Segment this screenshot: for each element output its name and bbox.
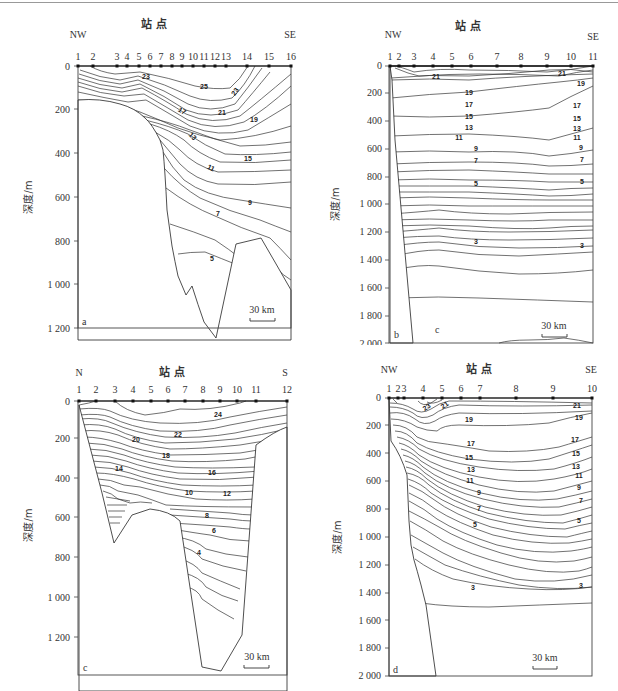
- panel-b-scale-bar: [542, 334, 567, 337]
- svg-text:13: 13: [221, 51, 231, 62]
- svg-text:7: 7: [477, 505, 481, 512]
- svg-text:3: 3: [471, 584, 475, 591]
- svg-text:4: 4: [197, 549, 201, 556]
- panel-a-left-direction: NW: [70, 29, 87, 40]
- svg-text:5: 5: [580, 178, 584, 185]
- svg-text:1 200: 1 200: [359, 559, 382, 570]
- svg-text:7: 7: [478, 383, 483, 394]
- svg-text:10: 10: [188, 51, 198, 62]
- svg-text:15: 15: [572, 450, 580, 457]
- svg-text:3: 3: [113, 384, 118, 395]
- svg-text:6: 6: [469, 51, 474, 62]
- svg-text:15: 15: [244, 155, 252, 162]
- svg-text:15: 15: [264, 51, 274, 62]
- svg-text:2 000: 2 000: [360, 338, 383, 345]
- panel-c-y-label: 深度/m: [22, 508, 34, 541]
- svg-text:200: 200: [367, 87, 382, 98]
- svg-text:11: 11: [573, 134, 581, 141]
- svg-text:1: 1: [77, 384, 82, 395]
- panel-b-frame: [389, 66, 593, 343]
- svg-text:0: 0: [377, 60, 382, 71]
- svg-text:4: 4: [421, 383, 426, 394]
- panel-d-station-labels: 1 2 3 4 5 6 7 8 9 10: [387, 383, 598, 394]
- svg-text:9: 9: [218, 384, 223, 395]
- panel-b-right-direction: SE: [587, 31, 599, 42]
- svg-text:21: 21: [558, 70, 566, 77]
- svg-text:1: 1: [387, 383, 392, 394]
- svg-text:14: 14: [242, 51, 252, 62]
- svg-text:400: 400: [366, 448, 381, 459]
- panel-c-scale-bar-label: 30 km: [244, 651, 270, 662]
- svg-text:10: 10: [587, 383, 597, 394]
- svg-text:9: 9: [551, 383, 556, 394]
- svg-text:1 600: 1 600: [360, 282, 383, 293]
- svg-text:8: 8: [514, 383, 519, 394]
- panel-b-extra-label: c: [435, 324, 440, 335]
- panel-b-station-labels: 1 2 3 4 5 6 7 8 9 10 11: [388, 51, 598, 62]
- svg-text:11: 11: [251, 384, 261, 395]
- svg-text:7: 7: [495, 51, 500, 62]
- panel-b-scale-bar-label: 30 km: [541, 320, 567, 331]
- svg-text:1 800: 1 800: [360, 310, 383, 321]
- svg-text:9: 9: [474, 145, 478, 152]
- panel-a-y-label: 深度/m: [22, 180, 34, 213]
- svg-text:9: 9: [579, 144, 583, 151]
- svg-text:2 000: 2 000: [359, 670, 382, 681]
- svg-text:1 200: 1 200: [360, 226, 383, 237]
- svg-text:16: 16: [286, 51, 296, 62]
- panel-d-scale-bar-label: 30 km: [532, 652, 558, 663]
- panel-a-label: a: [82, 316, 87, 327]
- svg-text:18: 18: [162, 452, 170, 459]
- panel-a: 站 点 NW SE 1 2 3 4 5 6 7 8 9 10 11 12 13 …: [0, 0, 309, 345]
- panel-b-contour-labels: 21 21 19 19 17 17 15 15 13 13 11 11 9 9 …: [432, 70, 585, 249]
- svg-text:24: 24: [214, 411, 222, 418]
- panel-c-left-direction: N: [75, 367, 82, 378]
- panel-b-y-label: 深度/m: [329, 187, 341, 220]
- svg-text:6: 6: [459, 383, 464, 394]
- svg-text:4: 4: [431, 51, 436, 62]
- panel-a-scale-bar-label: 30 km: [249, 304, 275, 315]
- panel-b-y-axis: 0 200 400 600 800 1 000 1 200 1 400 1 60…: [360, 60, 390, 345]
- svg-text:1: 1: [388, 51, 393, 62]
- panel-c-label: c: [83, 662, 88, 673]
- svg-text:4: 4: [125, 51, 130, 62]
- panel-b-isotherms: [391, 66, 593, 343]
- svg-text:7: 7: [183, 384, 188, 395]
- svg-text:0: 0: [376, 392, 381, 403]
- svg-text:9: 9: [180, 51, 185, 62]
- svg-text:200: 200: [55, 104, 70, 115]
- svg-text:19: 19: [577, 80, 585, 87]
- svg-text:3: 3: [579, 582, 583, 589]
- svg-text:1 000: 1 000: [360, 198, 383, 209]
- panel-d-scale-bar: [533, 666, 557, 669]
- panel-d-right-direction: SE: [585, 364, 597, 375]
- svg-text:600: 600: [366, 475, 381, 486]
- svg-text:600: 600: [55, 192, 70, 203]
- panel-d: 站 点 NW SE 1 2 3 4 5 6 7 8 9 10 0 200 400…: [309, 345, 618, 691]
- svg-text:3: 3: [402, 383, 407, 394]
- svg-text:7: 7: [579, 497, 583, 504]
- svg-text:1 400: 1 400: [360, 254, 383, 265]
- svg-text:800: 800: [366, 503, 381, 514]
- svg-text:1 000: 1 000: [48, 592, 71, 603]
- svg-text:17: 17: [465, 101, 473, 108]
- panel-c-seafloor: [79, 405, 287, 691]
- svg-text:400: 400: [367, 115, 382, 126]
- svg-text:5: 5: [474, 180, 478, 187]
- svg-text:0: 0: [65, 396, 70, 407]
- svg-text:200: 200: [55, 433, 70, 444]
- svg-text:10: 10: [232, 384, 242, 395]
- svg-text:17: 17: [467, 440, 475, 447]
- svg-text:12: 12: [282, 384, 292, 395]
- svg-text:13: 13: [572, 463, 580, 470]
- panel-d-label: d: [393, 664, 398, 675]
- svg-text:600: 600: [55, 512, 70, 523]
- svg-text:3: 3: [412, 51, 417, 62]
- svg-text:2: 2: [91, 51, 96, 62]
- svg-text:1 000: 1 000: [48, 279, 71, 290]
- panel-c: 站 点 N S 1 2 3 4 5 6 7 8 9 10 11 12 0 200…: [0, 345, 309, 691]
- svg-text:1 400: 1 400: [359, 587, 382, 598]
- svg-text:17: 17: [571, 436, 579, 443]
- panel-d-isotherms: [390, 399, 592, 607]
- panel-b-label: b: [394, 329, 399, 340]
